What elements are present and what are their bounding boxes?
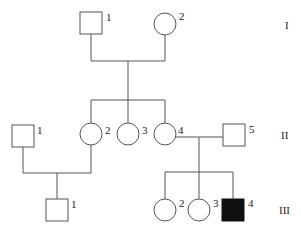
individual-label: 2 bbox=[179, 197, 185, 209]
individual-label: 2 bbox=[105, 124, 111, 136]
individual-label: 3 bbox=[142, 124, 148, 136]
generation-label: III bbox=[279, 204, 290, 216]
connector-lines bbox=[23, 34, 233, 199]
individual-label: 1 bbox=[71, 198, 77, 210]
individual-label: 1 bbox=[37, 124, 43, 136]
individual-II-2-female bbox=[80, 123, 102, 145]
individual-II-1-male bbox=[12, 125, 34, 147]
individual-label: 1 bbox=[106, 11, 112, 23]
individual-II-3-female bbox=[117, 123, 139, 145]
individual-III-4-male-affected bbox=[222, 199, 244, 221]
individual-III-3-female bbox=[188, 199, 210, 221]
individual-I-1-male bbox=[80, 12, 102, 34]
individual-I-2-female bbox=[154, 13, 176, 35]
generation-III: 1 2 3 4 III bbox=[46, 197, 290, 221]
individual-label: 4 bbox=[248, 197, 254, 209]
pedigree-chart: 1 2 I 1 2 3 4 5 II 1 2 3 4 III bbox=[0, 0, 301, 231]
generation-I: 1 2 I bbox=[80, 10, 289, 35]
generation-II: 1 2 3 4 5 II bbox=[12, 123, 289, 147]
individual-label: 4 bbox=[178, 124, 184, 136]
individual-II-4-female bbox=[154, 123, 176, 145]
generation-label: I bbox=[285, 19, 289, 31]
generation-label: II bbox=[281, 129, 289, 141]
individual-label: 3 bbox=[213, 197, 219, 209]
individual-II-5-male bbox=[223, 124, 245, 146]
individual-label: 2 bbox=[179, 10, 185, 22]
individual-III-2-female bbox=[154, 199, 176, 221]
individual-label: 5 bbox=[249, 123, 255, 135]
individual-III-1-male bbox=[46, 199, 68, 221]
